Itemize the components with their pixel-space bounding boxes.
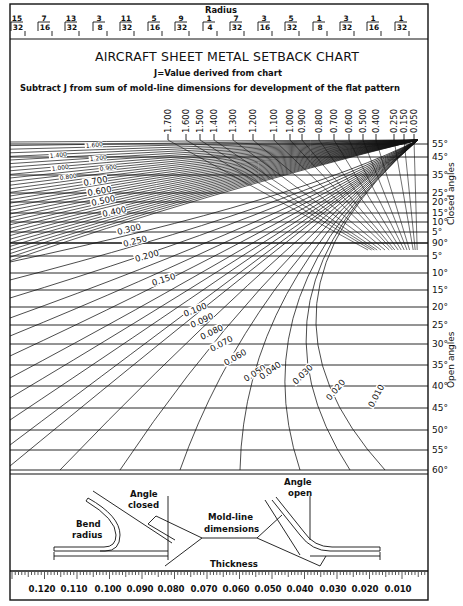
j-value-tick: 0.500 bbox=[358, 109, 368, 140]
thickness-tick: 0.090 bbox=[126, 584, 153, 594]
angle-label: 50° bbox=[432, 425, 448, 435]
angle-closed-label-2: closed bbox=[128, 500, 159, 510]
svg-text:8: 8 bbox=[97, 23, 102, 32]
j-value-axis-ticks: 1.7001.6001.5001.4001.3001.2001.1001.000… bbox=[163, 109, 419, 140]
radius-tick: 532 bbox=[285, 14, 299, 36]
j-value-tick: 1.300 bbox=[228, 109, 238, 140]
svg-text:32: 32 bbox=[232, 23, 242, 32]
svg-text:1.200: 1.200 bbox=[248, 109, 258, 133]
angle-label: 5° bbox=[432, 251, 442, 261]
thickness-tick: 0.060 bbox=[222, 584, 249, 594]
radius-tick: 18 bbox=[313, 14, 327, 36]
radius-tick: 1132 bbox=[120, 14, 134, 36]
mold-line-label-1: Mold-line bbox=[208, 512, 253, 522]
angle-label: 5° bbox=[432, 227, 442, 237]
curve-label: 1.200 bbox=[89, 153, 107, 162]
thickness-tick: 0.110 bbox=[60, 584, 87, 594]
angle-label: 55° bbox=[432, 139, 448, 149]
svg-text:32: 32 bbox=[287, 23, 297, 32]
closed-angles-label: Closed angles bbox=[446, 162, 456, 225]
svg-text:4: 4 bbox=[207, 23, 212, 32]
setback-curves bbox=[10, 140, 418, 470]
thickness-tick: 0.020 bbox=[351, 584, 378, 594]
svg-text:32: 32 bbox=[122, 23, 132, 32]
svg-text:0.150: 0.150 bbox=[399, 109, 409, 133]
svg-text:1.100: 1.100 bbox=[269, 109, 279, 133]
radius-tick: 332 bbox=[340, 14, 354, 36]
svg-text:1.500: 1.500 bbox=[195, 109, 205, 133]
curve-labels: 1.6001.4001.2001.0000.9000.8000.7000.600… bbox=[48, 140, 386, 409]
open-angles-label: Open angles bbox=[446, 331, 456, 388]
j-value-tick: 0.050 bbox=[409, 109, 419, 140]
j-value-tick: 0.700 bbox=[329, 109, 339, 140]
svg-text:32: 32 bbox=[13, 23, 23, 32]
thickness-tick: 0.120 bbox=[28, 584, 55, 594]
j-value-tick: 1.200 bbox=[248, 109, 258, 140]
diagram-labels: Bend radius Angle closed Mold-line dimen… bbox=[72, 477, 312, 569]
radius-axis-ticks: 1532716133238113251693214732316532183321… bbox=[11, 14, 409, 36]
radius-tick: 116 bbox=[367, 14, 381, 36]
svg-text:32: 32 bbox=[67, 23, 77, 32]
j-value-tick: 1.600 bbox=[181, 109, 191, 140]
angle-label: 45° bbox=[432, 403, 448, 413]
svg-text:16: 16 bbox=[150, 23, 160, 32]
j-value-tick: 1.400 bbox=[209, 109, 219, 140]
svg-text:16: 16 bbox=[40, 23, 50, 32]
j-value-tick: 1.500 bbox=[195, 109, 205, 140]
angle-label: 55° bbox=[432, 445, 448, 455]
radius-tick: 932 bbox=[175, 14, 189, 36]
setback-chart: Radius 153271613323811325169321473231653… bbox=[0, 0, 463, 606]
curve-label: 0.200 bbox=[134, 248, 160, 264]
thickness-minor-ticks bbox=[12, 572, 425, 579]
j-value-tick: 0.900 bbox=[297, 109, 307, 140]
angle-closed-label-1: Angle bbox=[130, 489, 158, 499]
svg-text:1.000: 1.000 bbox=[285, 109, 295, 133]
angle-label: 60° bbox=[432, 465, 448, 475]
svg-text:0.800: 0.800 bbox=[314, 109, 324, 133]
chart-frame bbox=[10, 4, 428, 600]
svg-text:8: 8 bbox=[317, 23, 322, 32]
thickness-tick: 0.030 bbox=[319, 584, 346, 594]
thickness-diagram-label: Thickness bbox=[210, 559, 258, 569]
angle-label: 20° bbox=[432, 302, 448, 312]
radius-tick: 1332 bbox=[65, 14, 79, 36]
thickness-tick: 0.050 bbox=[254, 584, 281, 594]
svg-text:0.600: 0.600 bbox=[344, 109, 354, 133]
svg-text:32: 32 bbox=[397, 23, 407, 32]
svg-text:1.700: 1.700 bbox=[163, 109, 173, 133]
bend-radius-label-2: radius bbox=[72, 530, 102, 540]
radius-tick: 716 bbox=[38, 14, 52, 36]
angle-open-label-2: open bbox=[288, 488, 312, 498]
thickness-tick: 0.070 bbox=[190, 584, 217, 594]
angle-label: 45° bbox=[432, 152, 448, 162]
thickness-tick: 0.010 bbox=[384, 584, 411, 594]
svg-text:0.250: 0.250 bbox=[389, 109, 399, 133]
angle-label: 15° bbox=[432, 285, 448, 295]
curve-label: 0.010 bbox=[366, 383, 386, 409]
j-value-tick: 0.400 bbox=[371, 109, 381, 140]
j-value-tick: 0.800 bbox=[314, 109, 324, 140]
svg-text:16: 16 bbox=[260, 23, 270, 32]
radius-tick: 132 bbox=[395, 14, 409, 36]
radius-tick: 516 bbox=[148, 14, 162, 36]
angle-label: 10° bbox=[432, 268, 448, 278]
svg-text:0.900: 0.900 bbox=[297, 109, 307, 133]
thickness-axis-ticks: 0.1200.1100.1000.0900.0800.0700.0600.050… bbox=[28, 584, 411, 594]
chart-subtitle-2: Subtract J from sum of mold-line dimensi… bbox=[20, 83, 400, 93]
j-value-tick: 0.600 bbox=[344, 109, 354, 140]
radius-tick: 732 bbox=[230, 14, 244, 36]
radius-tick: 38 bbox=[93, 14, 107, 36]
j-value-tick: 1.100 bbox=[269, 109, 279, 140]
radius-tick: 14 bbox=[203, 14, 217, 36]
curve-label: 1.000 bbox=[51, 163, 69, 172]
svg-text:1.600: 1.600 bbox=[181, 109, 191, 133]
thickness-tick: 0.040 bbox=[286, 584, 313, 594]
curve-label: 1.600 bbox=[85, 140, 103, 149]
thickness-tick: 0.100 bbox=[94, 584, 121, 594]
svg-text:0.500: 0.500 bbox=[358, 109, 368, 133]
svg-text:1.300: 1.300 bbox=[228, 109, 238, 133]
j-value-tick: 0.150 bbox=[399, 109, 409, 140]
svg-text:0.050: 0.050 bbox=[409, 109, 419, 133]
svg-text:32: 32 bbox=[177, 23, 187, 32]
j-value-tick: 1.000 bbox=[285, 109, 295, 140]
